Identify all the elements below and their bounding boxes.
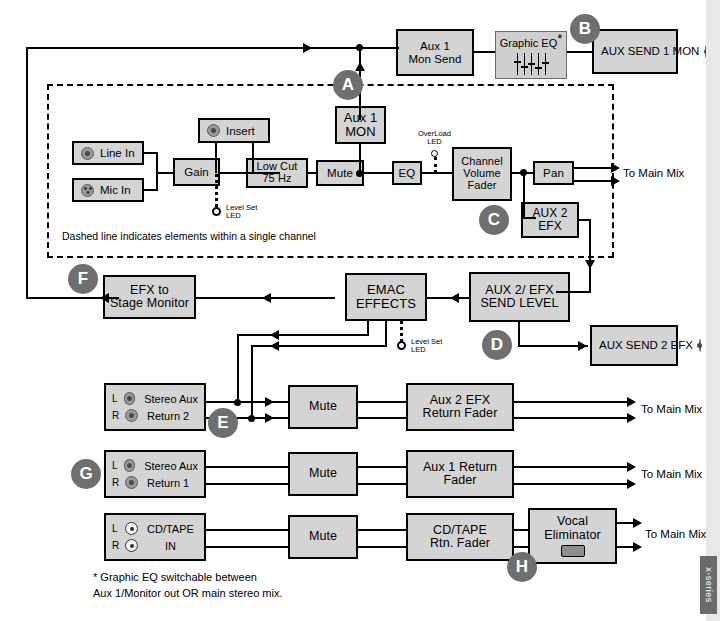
wire-insert-return — [252, 143, 254, 173]
block-aux1-return-fader-label: Aux 1 Return Fader — [423, 461, 497, 488]
label-to-main-mix-channel: To Main Mix — [623, 167, 684, 180]
wire-monsend-to-eq — [474, 51, 495, 53]
wire-ret1-out-r — [514, 483, 634, 485]
trs-jack-icon-aux-send-2 — [699, 339, 701, 352]
stereo-aux-return-1-left-row: L Stereo Aux — [112, 457, 198, 474]
graphic-eq-label: Graphic EQ* — [500, 35, 563, 50]
wire-ret1-out-l — [514, 466, 634, 468]
stereo-aux-return-2-left-row: L Stereo Aux — [112, 390, 198, 407]
stereo-aux-return-2-right-row: R Return 2 — [112, 407, 198, 424]
graphic-eq-faders-icon — [517, 53, 546, 75]
wire-mute2-r — [358, 417, 406, 419]
block-aux2-efx-send-level-label: AUX 2/ EFX SEND LEVEL — [480, 284, 558, 311]
page-edge-shade — [706, 0, 720, 621]
badge-D: D — [482, 330, 512, 360]
block-aux2-efx-send-level: AUX 2/ EFX SEND LEVEL — [469, 272, 570, 322]
block-efx-to-stage-monitor-label: EFX to Stage Monitor — [110, 284, 189, 311]
block-mute-return-1: Mute — [288, 452, 358, 496]
rca-jack-icon-cd-r — [125, 539, 138, 552]
overload-led-label: OverLoad LED — [418, 130, 451, 147]
wire-merge-to-gain — [156, 172, 173, 174]
block-emac-effects-label: EMAC EFFECTS — [356, 283, 416, 311]
badge-E: E — [208, 408, 238, 438]
level-set-led-2-label: Level Set LED — [411, 338, 442, 355]
cd-tape-line1: CD/TAPE — [147, 523, 194, 535]
trs-jack-icon-return1-l — [124, 459, 135, 472]
wire-cdfader-l — [514, 529, 528, 531]
wire-mutecd-l — [358, 529, 406, 531]
wire-ret2-out-r — [514, 417, 634, 419]
label-right-channel-r1: R — [112, 477, 121, 488]
wire-emac-ret-l-down2 — [237, 334, 239, 402]
wire-insert-send — [215, 143, 217, 173]
wire-emac-ret-l-left — [237, 334, 369, 336]
wire-outer-loop-top2 — [303, 47, 399, 49]
dotted-overload-led — [434, 157, 437, 173]
wire-outer-loop-top — [26, 47, 311, 49]
arrow-aux2efx-down — [585, 260, 595, 269]
wire-aux2efx-into-sendlevel — [556, 291, 591, 293]
block-mute-return-2-label: Mute — [309, 400, 337, 414]
arrow-ret1-out-l — [627, 462, 636, 472]
arrow-vocalelim-out-r — [633, 542, 642, 552]
side-tab-x-series: x-series — [700, 556, 717, 614]
arrow-emac-ret-r — [270, 341, 279, 351]
block-graphic-eq: Graphic EQ* — [495, 31, 567, 79]
aux-send-2-efx-label: AUX SEND 2 EFX — [599, 339, 693, 352]
wire-emac-ret-r-down — [385, 321, 387, 347]
level-set-led-1-label: Level Set LED — [226, 204, 257, 221]
badge-B: B — [570, 14, 600, 44]
arrow-ret2-out-l — [627, 397, 636, 407]
cd-tape-line2: IN — [165, 540, 176, 552]
dotted-level-set-led-1 — [215, 174, 218, 207]
wire-ret1-l — [206, 466, 288, 468]
label-right-channel-cd: R — [112, 540, 121, 551]
arrow-outer-loop-bottom — [100, 293, 109, 303]
badge-A: A — [333, 70, 363, 100]
wire-cd-l — [206, 529, 288, 531]
arrow-ret2-out-r — [627, 413, 636, 423]
junction-aux1-tap — [356, 170, 363, 177]
wire-ret2-l — [206, 401, 288, 403]
overload-led-icon — [431, 150, 438, 157]
block-stereo-aux-return-1: L Stereo Aux R Return 1 — [104, 450, 206, 498]
cd-tape-right-row: R IN — [112, 537, 198, 554]
wire-mute2-l — [358, 401, 406, 403]
block-stereo-aux-return-2: L Stereo Aux R Return 2 — [104, 383, 206, 431]
wire-to-aux2-efx — [523, 217, 536, 219]
stereo-aux-return-1-line2: Return 1 — [147, 477, 189, 489]
stereo-aux-return-2-line1: Stereo Aux — [144, 393, 198, 405]
wire-gain-to-insert — [220, 172, 252, 174]
block-cd-tape-in: L CD/TAPE R IN — [104, 513, 206, 561]
switch-button-icon-vocal-eliminator[interactable] — [561, 545, 585, 557]
block-cd-tape-rtn-fader: CD/TAPE Rtn. Fader — [406, 513, 514, 561]
arrow-ret2-r — [265, 413, 274, 423]
label-to-main-mix-return1: To Main Mix — [641, 468, 702, 481]
dotted-level-set-led-2 — [400, 321, 403, 342]
footnote-graphic-eq: * Graphic EQ switchable between Aux 1/Mo… — [93, 570, 283, 602]
trs-jack-icon-return1-r — [125, 476, 138, 489]
wire-aux2efx-down — [589, 219, 591, 293]
junction-aux1-send — [356, 44, 363, 51]
arrow-to-auxsend2 — [578, 341, 587, 351]
wire-lowcut-to-mute — [308, 172, 316, 174]
badge-H: H — [507, 552, 537, 582]
wire-fader-to-aux2 — [523, 172, 525, 219]
label-left-channel-r2: L — [112, 393, 120, 404]
junction-ret2-l — [234, 399, 241, 406]
label-right-channel-r2: R — [112, 410, 121, 421]
stereo-aux-return-1-line1: Stereo Aux — [144, 460, 198, 472]
block-vocal-eliminator-label: Vocal Eliminator — [544, 515, 601, 542]
block-emac-effects: EMAC EFFECTS — [345, 273, 427, 321]
wire-cdfader-r — [514, 546, 528, 548]
label-left-channel-r1: L — [112, 460, 120, 471]
arrow-emac-ret-l — [270, 330, 279, 340]
badge-F: F — [68, 264, 98, 294]
label-left-channel-cd: L — [112, 523, 121, 534]
level-set-led-1-icon — [212, 207, 221, 216]
wire-mute1-r — [358, 483, 406, 485]
arrow-emac-to-efxstage — [262, 293, 271, 303]
block-aux1-mon-send-label: Aux 1 Mon Send — [408, 40, 461, 65]
trs-jack-icon-return2-l — [124, 392, 135, 405]
wire-outer-loop-left — [26, 48, 28, 299]
